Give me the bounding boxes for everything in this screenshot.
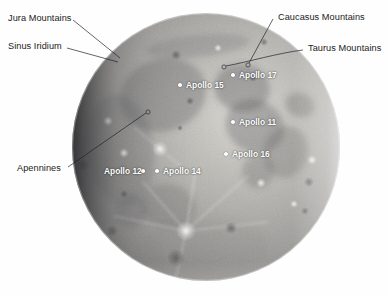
leader-endpoint-taurus-mountains [222,65,226,69]
landing-site-label-apollo-17: Apollo 17 [239,71,277,79]
landing-site-marker-apollo-15 [178,83,182,87]
moon-map-figure: Jura Mountains Sinus Iridium Caucasus Mo… [0,0,388,296]
landing-site-label-apollo-12: Apollo 12 [104,167,142,175]
landing-site-marker-apollo-17 [231,73,235,77]
leader-line-taurus-mountains [226,50,303,66]
annotation-label-caucasus-mountains: Caucasus Mountains [278,13,365,22]
annotation-label-taurus-mountains: Taurus Mountains [308,44,381,53]
leader-endpoint-apennines [146,110,150,114]
landing-site-marker-apollo-16 [224,152,228,156]
landing-site-marker-apollo-14 [155,169,159,173]
leader-line-jura-mountains [73,20,120,58]
annotation-label-jura-mountains: Jura Mountains [8,14,72,23]
annotation-label-sinus-iridium: Sinus Iridium [8,42,62,51]
annotation-label-apennines: Apennines [17,164,61,173]
landing-site-label-apollo-11: Apollo 11 [239,118,276,126]
landing-site-label-apollo-14: Apollo 14 [163,167,201,175]
leader-endpoint-caucasus-mountains [246,63,250,67]
landing-site-label-apollo-15: Apollo 15 [186,81,224,89]
landing-site-label-apollo-16: Apollo 16 [232,150,270,158]
leader-line-apennines [68,113,146,167]
landing-site-marker-apollo-11 [231,120,235,124]
